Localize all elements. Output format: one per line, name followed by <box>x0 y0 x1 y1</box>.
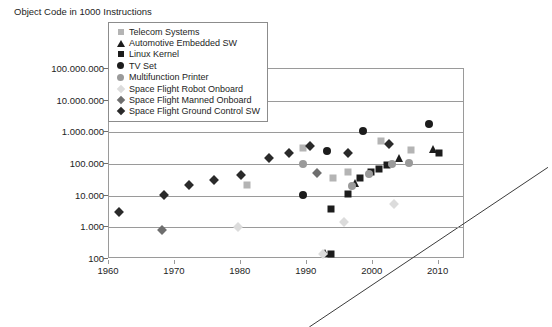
legend-item: Automotive Embedded SW <box>114 37 260 48</box>
data-point <box>299 160 307 168</box>
chart-title: Object Code in 1000 Instructions <box>14 6 152 17</box>
data-point <box>330 175 337 182</box>
x-tick-label: 1990 <box>295 265 316 276</box>
x-tick-label: 2000 <box>361 265 382 276</box>
chart-legend: Telecom SystemsAutomotive Embedded SWLin… <box>108 22 268 122</box>
legend-item: Space Flight Robot Onboard <box>114 83 260 94</box>
x-tick-label: 1980 <box>229 265 250 276</box>
data-point <box>114 207 124 217</box>
x-tick-label: 1970 <box>163 265 184 276</box>
legend-marker-icon <box>114 74 127 81</box>
legend-item: TV Set <box>114 60 260 71</box>
legend-marker-icon <box>114 62 127 69</box>
legend-item-label: Multifunction Printer <box>127 72 209 82</box>
legend-item: Space Flight Ground Control SW <box>114 106 260 117</box>
data-point <box>345 190 352 197</box>
x-tick-label: 2010 <box>427 265 448 276</box>
x-tick-mark <box>108 260 109 264</box>
y-tick-label: 100.000 <box>70 158 104 169</box>
data-point <box>159 190 169 200</box>
data-point <box>388 160 396 168</box>
data-point <box>395 154 403 162</box>
data-point <box>425 120 433 128</box>
data-point <box>365 170 373 178</box>
legend-item-label: Telecom Systems <box>127 27 200 37</box>
legend-item: Multifunction Printer <box>114 72 260 83</box>
x-tick-mark <box>174 260 175 264</box>
data-point <box>184 181 194 191</box>
data-point <box>375 166 382 173</box>
data-point <box>244 182 251 189</box>
legend-item: Telecom Systems <box>114 26 260 37</box>
data-point <box>359 127 367 135</box>
legend-marker-icon <box>114 86 127 92</box>
data-point <box>344 168 351 175</box>
legend-item-label: Linux Kernel <box>127 49 179 59</box>
legend-marker-icon <box>114 29 127 35</box>
legend-marker-icon <box>114 97 127 103</box>
legend-marker-icon <box>114 108 127 114</box>
x-tick-mark <box>306 260 307 264</box>
data-point <box>327 205 334 212</box>
y-tick-mark <box>103 258 108 259</box>
legend-item-label: TV Set <box>127 61 157 71</box>
legend-item: Linux Kernel <box>114 49 260 60</box>
legend-item-label: Automotive Embedded SW <box>127 38 237 48</box>
data-point <box>348 182 356 190</box>
data-point <box>435 149 442 156</box>
data-point <box>405 159 413 167</box>
data-point <box>327 251 334 258</box>
data-point <box>407 146 414 153</box>
x-tick-label: 1960 <box>97 265 118 276</box>
x-tick-mark <box>240 260 241 264</box>
y-tick-label: 10.000 <box>75 189 104 200</box>
legend-marker-icon <box>114 40 127 47</box>
y-tick-label: 10.000.000 <box>56 94 104 105</box>
x-axis: 196019701980199020002010 <box>108 260 464 284</box>
legend-item: Space Flight Manned Onboard <box>114 94 260 105</box>
legend-item-label: Space Flight Ground Control SW <box>127 106 260 116</box>
legend-item-label: Space Flight Manned Onboard <box>127 95 252 105</box>
data-point <box>299 191 307 199</box>
y-tick-label: 1.000.000 <box>62 126 104 137</box>
x-tick-mark <box>372 260 373 264</box>
x-tick-mark <box>438 260 439 264</box>
data-point <box>323 147 331 155</box>
legend-item-label: Space Flight Robot Onboard <box>127 84 243 94</box>
y-axis: 1001.00010.000100.0001.000.00010.000.000… <box>0 68 104 258</box>
data-point <box>356 175 363 182</box>
y-tick-label: 100 <box>88 253 104 264</box>
y-tick-label: 100.000.000 <box>51 63 104 74</box>
y-tick-label: 1.000 <box>80 221 104 232</box>
gridline <box>109 132 463 133</box>
legend-marker-icon <box>114 51 127 57</box>
